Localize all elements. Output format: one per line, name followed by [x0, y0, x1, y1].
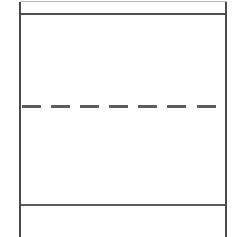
dash-segment: [138, 105, 157, 108]
right-table-border: [225, 2, 227, 237]
upper-blank-cell: [21, 15, 225, 105]
dash-segment: [197, 105, 216, 108]
footer-blank-cell: [21, 206, 225, 237]
dash-segment: [109, 105, 128, 108]
dash-segment: [80, 105, 99, 108]
scanned-document-page: [0, 0, 239, 237]
dash-segment: [22, 105, 41, 108]
center-dashed-rule: [22, 105, 221, 109]
dash-segment: [51, 105, 70, 108]
dash-segment: [167, 105, 186, 108]
top-hairline-rule: [20, 1, 227, 2]
lower-blank-cell: [21, 110, 225, 204]
